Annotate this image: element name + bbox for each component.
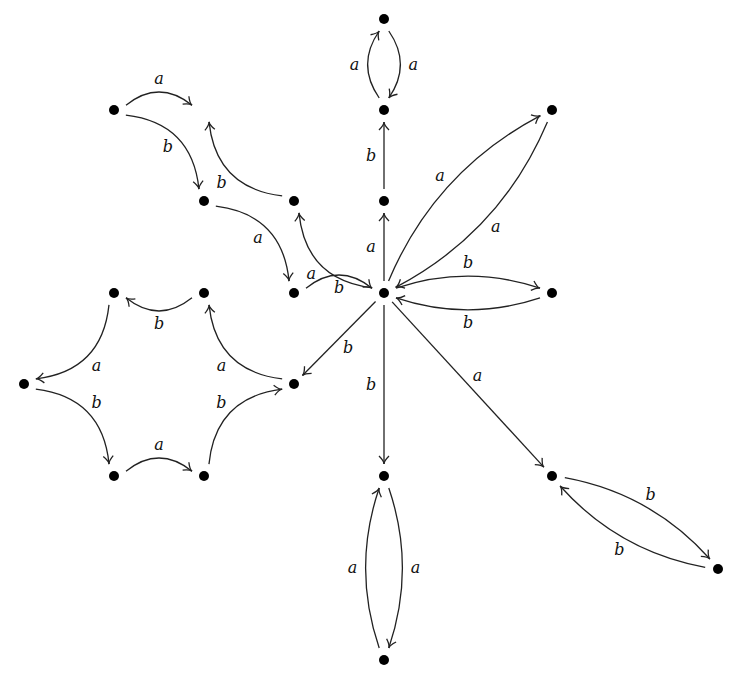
edge-hub-to-r2	[396, 276, 540, 288]
node-t1	[379, 196, 389, 206]
edge-label: b	[216, 393, 226, 412]
node-r2	[547, 288, 557, 298]
edge-t3-to-t2	[389, 31, 401, 98]
arrowhead-icon	[183, 96, 192, 105]
arrowhead-icon	[363, 279, 372, 288]
edge-r4-to-r3	[560, 486, 705, 567]
edge-b1-to-b2	[389, 488, 403, 648]
edge-label: b	[614, 540, 624, 559]
arrowhead-icon	[183, 462, 192, 471]
edge-label: a	[307, 264, 317, 283]
node-u3	[199, 196, 209, 206]
edge-r2-to-hub	[396, 298, 540, 310]
edge-label: a	[473, 366, 483, 385]
node-r4	[713, 564, 723, 574]
edge-label: a	[366, 237, 376, 256]
edge-label: a	[491, 217, 501, 236]
node-u2	[109, 105, 119, 115]
edge-b2-to-b1	[366, 488, 380, 648]
edge-label: a	[348, 558, 358, 577]
edge-label: a	[350, 55, 360, 74]
edge-label: a	[154, 435, 164, 454]
edge-label: a	[409, 55, 419, 74]
node-c2	[199, 288, 209, 298]
node-c3	[109, 288, 119, 298]
edge-label: b	[163, 137, 173, 156]
edge-label: b	[154, 314, 164, 333]
edge-r3-to-r4	[565, 478, 710, 559]
edge-label: a	[217, 356, 227, 375]
edge-label: b	[463, 313, 473, 332]
node-b2	[379, 655, 389, 665]
edge-c5-to-c6	[126, 458, 192, 471]
edge-label: b	[92, 393, 102, 412]
node-c4	[19, 379, 29, 389]
arrowhead-icon	[126, 298, 135, 307]
edge-hub-to-c1	[302, 302, 375, 376]
edge-label: a	[411, 558, 421, 577]
edge-label: b	[334, 278, 344, 297]
edge-label: b	[343, 338, 353, 357]
edge-u2-to-u0	[126, 92, 192, 105]
node-hub	[379, 288, 389, 298]
edge-label: a	[253, 228, 263, 247]
node-c1	[289, 379, 299, 389]
node-t3	[379, 14, 389, 24]
node-r3	[547, 471, 557, 481]
node-c6	[199, 471, 209, 481]
edge-label: b	[216, 173, 226, 192]
edge-label: a	[435, 166, 445, 185]
edge-label: b	[463, 253, 473, 272]
nodes-layer	[19, 14, 723, 665]
node-u1	[289, 196, 299, 206]
node-c5	[109, 471, 119, 481]
edge-t2-to-t3	[368, 31, 380, 98]
edge-label: b	[646, 485, 656, 504]
directed-graph: abaaaabbabbbaaabababbababab	[0, 0, 735, 678]
node-b1	[379, 471, 389, 481]
node-t2	[379, 105, 389, 115]
edge-label: b	[366, 375, 376, 394]
node-r1	[547, 105, 557, 115]
edge-label: a	[154, 69, 164, 88]
node-u4	[289, 288, 299, 298]
edges-layer: abaaaabbabbbaaabababbababab	[36, 31, 710, 648]
edge-label: b	[366, 146, 376, 165]
edge-c2-to-c3	[126, 298, 192, 311]
edge-label: a	[92, 356, 102, 375]
